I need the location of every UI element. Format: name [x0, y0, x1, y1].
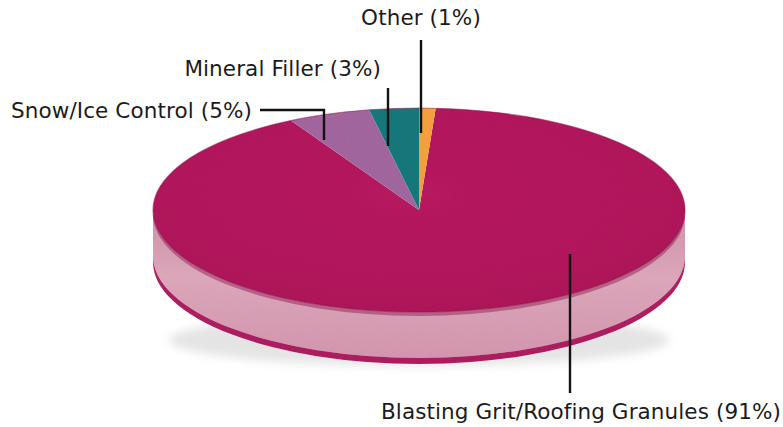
pie-chart-svg: Other (1%) Mineral Filler (3%) Snow/Ice … [0, 0, 783, 427]
label-mineral-filler: Mineral Filler (3%) [184, 56, 381, 81]
pie-top-face [153, 108, 685, 312]
label-snow-ice-control: Snow/Ice Control (5%) [11, 98, 252, 123]
pie-chart: Other (1%) Mineral Filler (3%) Snow/Ice … [0, 0, 783, 427]
label-blasting-grit: Blasting Grit/Roofing Granules (91%) [381, 399, 781, 424]
label-other: Other (1%) [361, 5, 481, 30]
